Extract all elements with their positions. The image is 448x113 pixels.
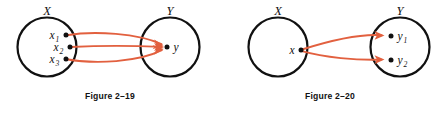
point-label-y-base: y (172, 41, 179, 54)
set-label-x-fig220: X (273, 4, 283, 18)
point-label-y2-subscript: 2 (404, 60, 408, 69)
point-dot-x2 (68, 45, 73, 50)
point-label-x-base: x (288, 44, 295, 56)
point-label-y1-base: y (396, 30, 403, 43)
point-label-x3-base: x (48, 53, 55, 65)
figure-2-20: X Y x y 1 (249, 4, 430, 101)
point-dot-y1 (389, 34, 394, 39)
arrow-x2-to-y (71, 46, 162, 47)
point-label-x2-base: x (52, 41, 59, 53)
diagram-canvas: X Y x 1 x 2 (0, 0, 448, 113)
point-label-x2-subscript: 2 (60, 47, 64, 56)
point-label-y: y (172, 41, 179, 54)
point-dot-x1 (64, 33, 69, 38)
set-label-y-fig219: Y (167, 4, 176, 18)
set-label-x-fig219: X (42, 4, 52, 18)
point-dot-y (165, 45, 170, 50)
set-circle-x-fig220 (249, 18, 308, 77)
arrow-x-to-y2 (302, 51, 382, 60)
point-dot-x3 (64, 57, 69, 62)
set-label-y-fig220: Y (397, 4, 406, 18)
figures-container: X Y x 1 x 2 (0, 0, 448, 113)
point-dot-x (299, 48, 304, 53)
point-label-y2-base: y (396, 54, 403, 67)
set-circle-y-fig220 (371, 18, 430, 77)
point-label-x1-base: x (48, 29, 55, 41)
point-label-y1-subscript: 1 (404, 36, 408, 45)
figure-2-19: X Y x 1 x 2 (18, 4, 200, 101)
point-label-x: x (288, 44, 295, 56)
figure-caption-2-20: Figure 2–20 (305, 91, 355, 101)
point-label-x3-subscript: 3 (55, 59, 60, 68)
figure-caption-2-19: Figure 2–19 (85, 91, 135, 101)
point-dot-y2 (389, 58, 394, 63)
